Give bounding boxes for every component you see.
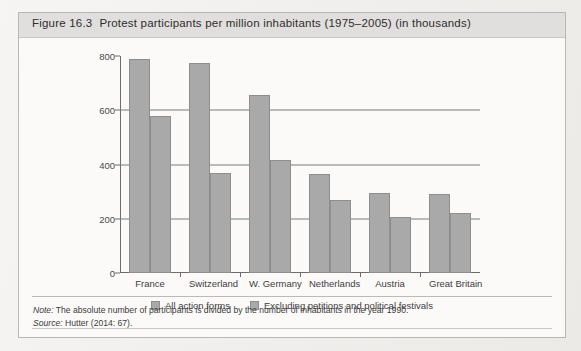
bar-series-container: FranceSwitzerlandW. GermanyNetherlandsAu… [120,56,480,273]
bar-group-great-britain: Great Britain [429,56,471,273]
bar[interactable] [429,194,450,273]
bar[interactable] [330,200,351,273]
y-tick-label-0: 0 [110,268,115,279]
bar[interactable] [369,193,390,273]
x-tick-label-w-germany: W. Germany [249,278,291,289]
chart-axes: 0200400600800 FranceSwitzerlandW. German… [120,56,480,273]
source-label: Source: [33,318,63,328]
x-tick-mark [300,273,301,277]
bar-group-switzerland: Switzerland [189,56,231,273]
x-tick-label-switzerland: Switzerland [189,278,231,289]
figure-title-text: Protest participants per million inhabit… [99,17,471,29]
bar[interactable] [450,213,471,273]
x-tick-label-netherlands: Netherlands [309,278,351,289]
note-label: Note: [33,305,54,315]
footer-divider [32,296,552,297]
figure-title-bar: Figure 16.3Protest participants per mill… [19,13,565,38]
bar[interactable] [150,116,171,273]
x-tick-mark [360,273,361,277]
x-tick-mark [180,273,181,277]
figure-number: Figure 16.3 [32,17,92,29]
figure-panel: Figure 16.3Protest participants per mill… [18,12,566,338]
bar-group-austria: Austria [369,56,411,273]
bar-group-w-germany: W. Germany [249,56,291,273]
y-tick-label-600: 600 [99,105,115,116]
y-tick-label-800: 800 [99,51,115,62]
y-tick-label-200: 200 [99,213,115,224]
figure-notes: Note: The absolute number of participant… [33,304,408,331]
note-text: The absolute number of participants is d… [54,305,409,315]
bar[interactable] [210,173,231,273]
bar[interactable] [189,63,210,273]
panel-bottom-rule [32,328,552,329]
figure-title: Figure 16.3Protest participants per mill… [32,17,471,29]
bar[interactable] [390,217,411,273]
bar-group-netherlands: Netherlands [309,56,351,273]
x-tick-label-france: France [129,278,171,289]
x-tick-mark [420,273,421,277]
x-tick-label-great-britain: Great Britain [429,278,471,289]
bar-group-france: France [129,56,171,273]
chart-plot-area: 0200400600800 FranceSwitzerlandW. German… [19,38,565,288]
x-tick-mark [240,273,241,277]
bar[interactable] [309,174,330,273]
x-tick-label-austria: Austria [369,278,411,289]
source-text: Hutter (2014: 67). [63,318,133,328]
bar[interactable] [249,95,270,273]
note-line: Note: The absolute number of participant… [33,304,408,317]
page-background: Figure 16.3Protest participants per mill… [0,0,581,351]
bar[interactable] [270,160,291,273]
bar[interactable] [129,59,150,273]
y-tick-label-400: 400 [99,159,115,170]
